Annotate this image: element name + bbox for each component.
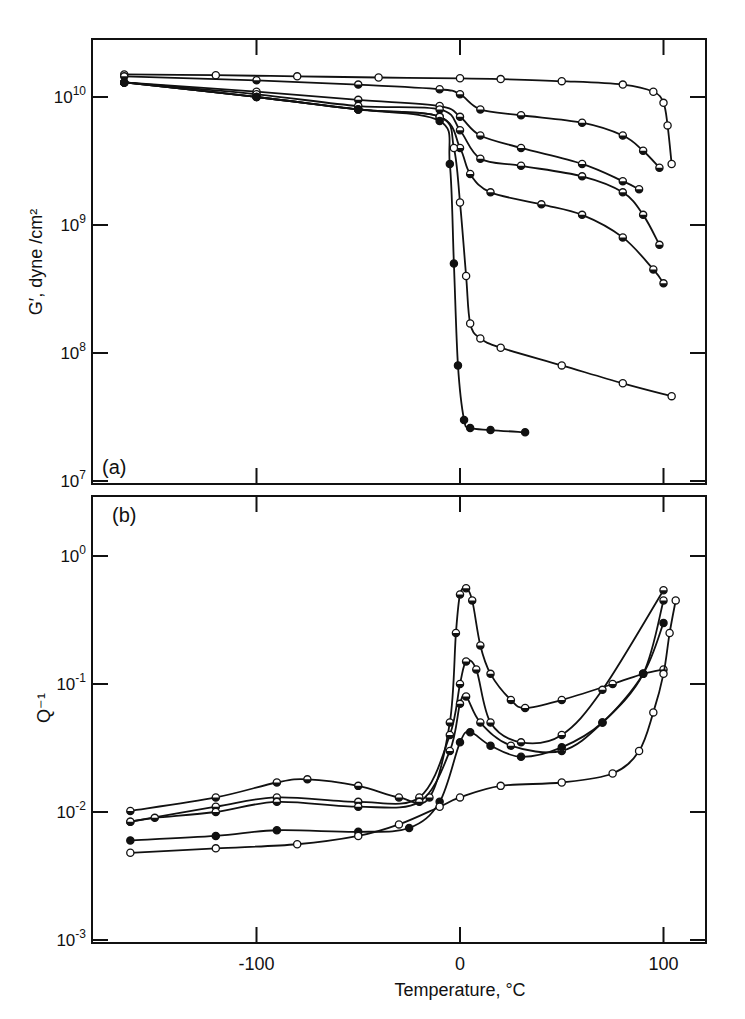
panel-a: 1071081091010 (a) G′, dyne /cm² <box>26 39 706 491</box>
data-point <box>463 272 470 279</box>
x-tick-label: -100 <box>238 954 274 974</box>
panel-a-series <box>121 71 676 436</box>
y-tick-label: 100 <box>60 543 86 566</box>
data-point <box>558 779 565 786</box>
series-line <box>130 588 663 811</box>
data-series <box>121 79 643 193</box>
data-point <box>477 335 484 342</box>
data-point <box>672 597 679 604</box>
data-point <box>558 362 565 369</box>
y-tick-label: 109 <box>60 212 86 235</box>
y-axis-label-a: G′, dyne /cm² <box>26 209 46 315</box>
data-point <box>395 821 402 828</box>
data-point <box>467 424 474 431</box>
data-series <box>121 79 667 287</box>
data-point <box>294 73 301 80</box>
data-point <box>121 79 128 86</box>
y-tick-label: 10-1 <box>56 671 86 694</box>
data-series <box>121 79 529 436</box>
data-point <box>497 782 504 789</box>
x-tick-label: 100 <box>648 954 678 974</box>
data-point <box>640 670 647 677</box>
data-point <box>406 824 413 831</box>
data-series <box>121 79 676 400</box>
x-axis-label: Temperature, °C <box>394 980 525 1000</box>
data-point <box>650 709 657 716</box>
panel-b-frame <box>92 496 706 943</box>
data-point <box>456 199 463 206</box>
data-point <box>487 426 494 433</box>
data-point <box>355 106 362 113</box>
data-point <box>660 670 667 677</box>
series-line <box>124 82 671 396</box>
data-point <box>446 160 453 167</box>
data-point <box>467 320 474 327</box>
data-point <box>294 841 301 848</box>
x-tick-labels: -1000100 <box>238 954 678 974</box>
x-tick-label: 0 <box>455 954 465 974</box>
data-point <box>355 832 362 839</box>
panel-b-ticks: 10-310-210-1100 <box>56 496 706 950</box>
data-point <box>522 429 529 436</box>
figure: 1071081091010 (a) G′, dyne /cm² 10-310-2… <box>0 0 745 1019</box>
data-point <box>497 75 504 82</box>
data-point <box>436 117 443 124</box>
data-point <box>460 416 467 423</box>
data-series <box>127 619 667 844</box>
data-point <box>660 99 667 106</box>
series-line <box>124 82 639 189</box>
data-series <box>121 71 676 168</box>
data-point <box>454 362 461 369</box>
data-point <box>212 845 219 852</box>
data-point <box>599 719 606 726</box>
data-point <box>375 74 382 81</box>
data-point <box>664 122 671 129</box>
data-point <box>619 81 626 88</box>
panel-b: 10-310-210-1100 (b) Q⁻¹ <box>34 496 706 950</box>
data-point <box>497 344 504 351</box>
data-point <box>660 619 667 626</box>
data-point <box>456 739 463 746</box>
data-point <box>450 260 457 267</box>
data-point <box>253 93 260 100</box>
y-tick-label: 108 <box>60 340 86 363</box>
data-point <box>127 849 134 856</box>
y-tick-label: 107 <box>60 468 86 491</box>
data-point <box>467 729 474 736</box>
data-point <box>558 744 565 751</box>
data-point <box>127 837 134 844</box>
y-tick-label: 1010 <box>54 84 87 107</box>
panel-a-frame <box>92 39 706 484</box>
series-line <box>130 590 663 821</box>
data-point <box>456 75 463 82</box>
data-point <box>487 742 494 749</box>
series-line <box>130 600 675 852</box>
data-point <box>558 78 565 85</box>
data-point <box>666 629 673 636</box>
panel-b-series <box>127 585 680 857</box>
data-point <box>273 827 280 834</box>
data-point <box>635 747 642 754</box>
data-series <box>127 587 667 826</box>
data-point <box>609 770 616 777</box>
panel-b-label: (b) <box>112 504 136 526</box>
data-point <box>456 794 463 801</box>
y-tick-label: 10-2 <box>56 799 86 822</box>
data-point <box>668 393 675 400</box>
panel-a-label: (a) <box>102 456 126 478</box>
data-point <box>212 72 219 79</box>
data-point <box>436 803 443 810</box>
y-tick-label: 10-3 <box>56 927 86 950</box>
data-point <box>212 832 219 839</box>
data-point <box>650 88 657 95</box>
series-line <box>130 600 663 821</box>
data-point <box>668 160 675 167</box>
data-point <box>450 144 457 151</box>
data-point <box>619 380 626 387</box>
data-point <box>517 753 524 760</box>
y-axis-label-b: Q⁻¹ <box>34 693 54 723</box>
